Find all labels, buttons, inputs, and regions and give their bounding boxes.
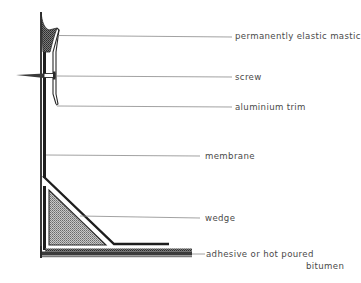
base-layers xyxy=(40,246,192,258)
leader-mastic xyxy=(58,36,232,38)
leader-membrane xyxy=(46,155,200,156)
label-bitumen: bitumen xyxy=(306,261,344,271)
label-adhesive: adhesive or hot poured xyxy=(206,249,314,259)
aluminium-trim xyxy=(53,28,59,105)
label-aluminium-trim: aluminium trim xyxy=(235,102,306,112)
label-membrane: membrane xyxy=(205,151,255,161)
leader-wedge xyxy=(80,216,200,218)
label-wedge: wedge xyxy=(205,213,235,223)
screw xyxy=(16,72,56,80)
label-mastic: permanently elastic mastic xyxy=(235,31,361,41)
label-screw: screw xyxy=(235,72,262,82)
membrane-lower-vertical xyxy=(43,186,46,250)
leader-trim xyxy=(57,106,232,107)
leader-screw xyxy=(56,76,232,77)
wedge-triangle xyxy=(49,190,106,245)
